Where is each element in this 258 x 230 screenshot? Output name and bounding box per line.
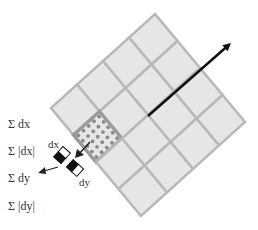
- sum-dx: Σ dx: [8, 117, 30, 132]
- sample-point: [102, 120, 106, 124]
- sample-point: [76, 133, 80, 137]
- sample-point: [97, 115, 101, 119]
- sample-point: [115, 136, 119, 140]
- filter-to-sums-arrow-icon: [38, 167, 58, 174]
- sample-point: [82, 129, 86, 133]
- haar-dy-filter-icon: [66, 160, 83, 177]
- sample-point: [95, 145, 99, 149]
- sample-point: [87, 124, 91, 128]
- sample-point: [96, 135, 100, 139]
- sample-point: [81, 139, 85, 143]
- sum-abs-dy: Σ |dy|: [8, 199, 35, 214]
- sample-point: [86, 134, 90, 138]
- sample-point: [106, 136, 110, 140]
- dx-label: dx: [48, 138, 59, 150]
- sample-point: [100, 150, 104, 154]
- sample-point: [97, 125, 101, 129]
- sample-point: [106, 125, 110, 129]
- sample-point: [91, 129, 95, 133]
- sample-point: [94, 155, 98, 159]
- dy-label: dy: [79, 176, 90, 188]
- sample-point: [110, 141, 114, 145]
- sum-abs-dx: Σ |dx|: [8, 144, 35, 159]
- sample-point: [92, 119, 96, 123]
- diagram-canvas: [0, 0, 258, 230]
- sample-point: [111, 131, 115, 135]
- sample-point: [90, 150, 94, 154]
- sample-point: [100, 140, 104, 144]
- sum-dy: Σ dy: [8, 171, 30, 186]
- sample-point: [101, 130, 105, 134]
- sample-point: [105, 146, 109, 150]
- sample-point: [91, 140, 95, 144]
